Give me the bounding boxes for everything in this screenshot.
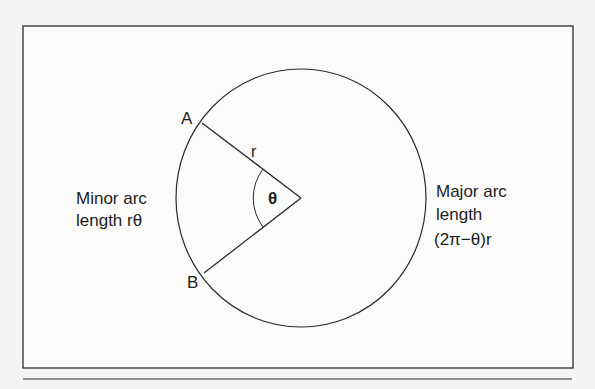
major-arc-line1: Major arc [436,182,507,201]
radius-label: r [251,143,257,160]
point-b-label: B [187,273,198,292]
diagram-canvas: A B r θ Minor arc length rθ Major arc le… [0,0,595,389]
minor-arc-line1: Minor arc [76,189,147,208]
major-arc-line2: length [436,205,482,224]
angle-label: θ [268,189,277,208]
minor-arc-line2: length rθ [76,211,142,230]
point-a-label: A [181,109,193,128]
major-arc-line3: (2π−θ)r [434,230,492,249]
